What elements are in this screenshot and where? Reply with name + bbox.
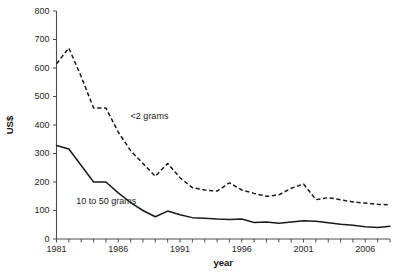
x-tick-label: 1996 <box>232 244 252 254</box>
x-tick-label: 1986 <box>108 244 128 254</box>
y-tick-label: 100 <box>34 205 49 215</box>
series-label: <2 grams <box>131 111 169 121</box>
chart-container: 0100200300400500600700800 19811986199119… <box>0 0 397 276</box>
y-tick-label: 500 <box>34 91 49 101</box>
series-label: 10 to 50 grams <box>76 196 137 206</box>
series-annotations: <2 grams10 to 50 grams <box>76 111 169 206</box>
y-tick-label: 700 <box>34 34 49 44</box>
y-tick-label: 600 <box>34 63 49 73</box>
x-tick-label: 1981 <box>46 244 66 254</box>
series-line-dashed <box>57 48 391 205</box>
x-tick-label: 1991 <box>170 244 190 254</box>
y-tick-label: 300 <box>34 148 49 158</box>
y-tick-label: 800 <box>34 6 49 16</box>
y-axis-tick-labels: 0100200300400500600700800 <box>34 6 49 244</box>
y-tick-label: 200 <box>34 177 49 187</box>
x-axis-title: year <box>213 257 233 268</box>
y-axis-title: US$ <box>4 115 15 134</box>
y-tick-label: 0 <box>44 234 49 244</box>
x-tick-label: 2001 <box>294 244 314 254</box>
y-tick-label: 400 <box>34 120 49 130</box>
x-axis-tick-labels: 198119861991199620012006 <box>46 244 375 254</box>
line-chart: 0100200300400500600700800 19811986199119… <box>0 0 397 276</box>
x-tick-label: 2006 <box>355 244 375 254</box>
